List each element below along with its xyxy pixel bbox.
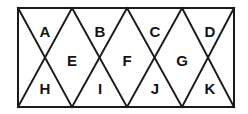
region-label-a: A: [40, 24, 51, 39]
region-label-e: E: [67, 53, 77, 68]
region-label-h: H: [40, 81, 51, 96]
region-label-i: I: [98, 81, 102, 96]
region-label-c: C: [150, 24, 161, 39]
region-label-b: B: [95, 24, 106, 39]
region-label-d: D: [205, 24, 216, 39]
region-label-k: K: [205, 81, 216, 96]
triangle-strip-figure: ABCDEFGHIJK: [0, 0, 248, 114]
region-label-f: F: [122, 53, 131, 68]
region-label-g: G: [176, 53, 188, 68]
region-label-j: J: [151, 81, 159, 96]
